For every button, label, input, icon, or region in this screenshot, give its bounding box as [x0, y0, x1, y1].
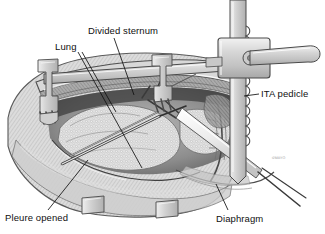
illustration-artwork [0, 0, 325, 234]
surgical-illustration-figure: Divided sternum Lung ITA pedicle Pleure … [0, 0, 325, 234]
label-lung: Lung [55, 41, 77, 52]
label-ita-pedicle: ITA pedicle [261, 88, 308, 99]
label-divided-sternum: Divided sternum [88, 25, 158, 36]
copyright-watermark: ©MAYO [272, 156, 286, 160]
retractor-blade-lower-right [156, 200, 178, 218]
label-pleure-opened: Pleure opened [5, 212, 68, 223]
retractor-blade-lower-left [82, 196, 104, 214]
label-diaphragm: Diaphragm [216, 213, 263, 224]
